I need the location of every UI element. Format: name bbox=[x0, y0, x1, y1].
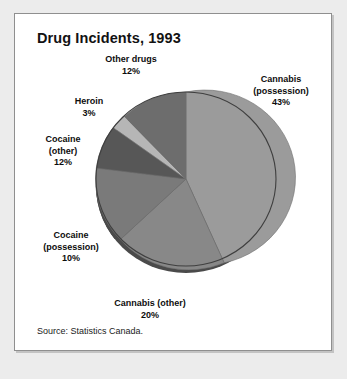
pie-label-other-drugs-value: 12% bbox=[83, 66, 179, 78]
pie-label-cannabis-possession-value: 43% bbox=[229, 97, 333, 109]
pie-label-cocaine-possession: Cocaine (possession) 10% bbox=[15, 230, 127, 265]
pie-label-cannabis-other-value: 20% bbox=[87, 310, 213, 322]
pie-label-cannabis-other-name: Cannabis (other) bbox=[114, 298, 186, 308]
pie-label-heroin-name: Heroin bbox=[75, 96, 104, 106]
source-note: Source: Statistics Canada. bbox=[37, 326, 143, 336]
pie-label-heroin: Heroin 3% bbox=[51, 96, 127, 119]
pie-label-cocaine-possession-name: Cocaine bbox=[53, 230, 88, 240]
pie-label-other-drugs: Other drugs 12% bbox=[83, 54, 179, 77]
pie-label-cocaine-other: Cocaine (other) 12% bbox=[21, 134, 105, 169]
pie-label-cannabis-possession: Cannabis (possession) 43% bbox=[229, 74, 333, 109]
pie-label-cocaine-other-value: 12% bbox=[21, 157, 105, 169]
pie-label-cannabis-other: Cannabis (other) 20% bbox=[87, 298, 213, 321]
pie-label-heroin-value: 3% bbox=[51, 108, 127, 120]
figure-card: Drug Incidents, 1993 bbox=[14, 13, 332, 351]
pie-label-cocaine-other-qualifier: (other) bbox=[21, 146, 105, 158]
pie-label-cocaine-other-name: Cocaine bbox=[45, 134, 80, 144]
pie-label-cannabis-possession-qualifier: (possession) bbox=[229, 86, 333, 98]
pie-label-other-drugs-name: Other drugs bbox=[105, 54, 157, 64]
pie-label-cocaine-possession-value: 10% bbox=[15, 253, 127, 265]
pie-label-cocaine-possession-qualifier: (possession) bbox=[15, 242, 127, 254]
pie-label-cannabis-possession-name: Cannabis bbox=[261, 74, 302, 84]
